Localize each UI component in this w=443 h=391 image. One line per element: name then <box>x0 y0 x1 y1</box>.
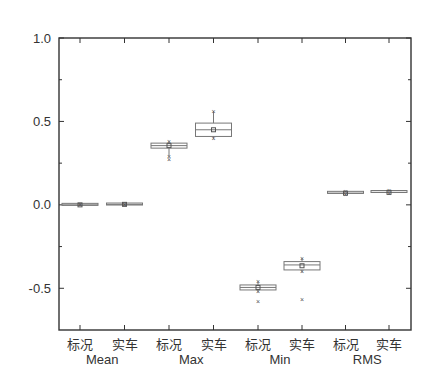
y-tick-label: -0.5 <box>29 281 51 296</box>
box-mean-1: ×× <box>107 201 143 208</box>
extreme-marker: × <box>387 190 391 197</box>
box-rms-6: ×× <box>328 188 364 198</box>
y-tick-label: 0.5 <box>33 114 51 129</box>
y-tick-label: 0.0 <box>33 197 51 212</box>
x-group-label: Mean <box>86 352 119 367</box>
x-axis: 标况实车标况实车标况实车标况实车MeanMaxMinRMS <box>67 38 402 367</box>
x-category-label: 实车 <box>376 337 402 352</box>
box-min-5: ××× <box>284 255 320 304</box>
box-min-4: ××× <box>240 278 276 305</box>
x-group-label: Max <box>179 352 204 367</box>
box-rms-7: ×× <box>371 187 407 197</box>
x-category-label: 实车 <box>112 337 138 352</box>
x-group-label: Min <box>270 352 291 367</box>
outlier-marker: × <box>167 156 171 163</box>
outlier-marker: × <box>300 296 304 303</box>
extreme-marker: × <box>211 135 215 142</box>
y-tick-label: 1.0 <box>33 31 51 46</box>
extreme-marker: × <box>122 201 126 208</box>
extreme-marker: × <box>256 278 260 285</box>
extreme-marker: × <box>211 108 215 115</box>
extreme-marker: × <box>256 288 260 295</box>
plot-frame <box>59 38 411 330</box>
x-category-label: 实车 <box>201 337 227 352</box>
box-max-2: ××× <box>151 138 187 163</box>
box-mean-0: ×× <box>62 201 98 208</box>
x-group-label: RMS <box>353 352 382 367</box>
extreme-marker: × <box>78 201 82 208</box>
y-axis: 1.00.50.0-0.5 <box>29 31 411 296</box>
x-category-label: 标况 <box>156 337 182 352</box>
extreme-marker: × <box>167 138 171 145</box>
extreme-marker: × <box>343 191 347 198</box>
extreme-marker: × <box>300 268 304 275</box>
x-category-label: 标况 <box>245 337 271 352</box>
box-max-3: ×× <box>196 108 232 142</box>
box-plot-chart: 1.00.50.0-0.5 标况实车标况实车标况实车标况实车MeanMaxMin… <box>0 0 443 391</box>
x-category-label: 实车 <box>289 337 315 352</box>
plot-border <box>59 38 411 330</box>
x-category-label: 标况 <box>67 337 93 352</box>
box-series: ××××××××××××××××××× <box>62 108 407 305</box>
outlier-marker: × <box>256 298 260 305</box>
extreme-marker: × <box>300 255 304 262</box>
x-category-label: 标况 <box>333 337 359 352</box>
